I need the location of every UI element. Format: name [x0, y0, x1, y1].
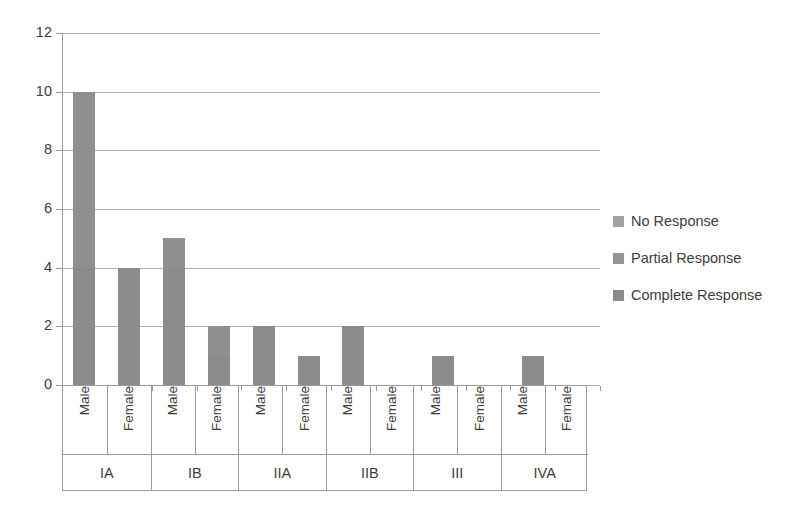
bar[interactable] [208, 326, 230, 385]
bar[interactable] [342, 326, 364, 385]
x-sex-label: Male [78, 386, 92, 419]
bar-chart: 024681012 MaleFemaleIAMaleFemaleIBMaleFe… [0, 0, 807, 515]
x-sex-label: Male [341, 386, 355, 419]
y-tick-mark [56, 92, 62, 93]
bar-segment [73, 92, 95, 268]
bar-segment [118, 268, 140, 385]
bar[interactable] [522, 356, 544, 385]
x-sex-label: Male [254, 386, 268, 419]
x-axis-label-table: MaleFemaleIAMaleFemaleIBMaleFemaleIIAMal… [62, 386, 587, 491]
x-tick-mark [510, 386, 511, 391]
x-sex-cell: Female [195, 386, 238, 454]
x-group-label: IVA [502, 454, 589, 490]
bar-slot [152, 33, 197, 385]
x-sex-row: MaleFemale [63, 386, 151, 454]
y-tick-label: 4 [18, 260, 52, 275]
bar-segment [163, 238, 185, 267]
x-sex-row: MaleFemale [152, 386, 239, 454]
x-sex-label: Female [210, 386, 224, 435]
x-sex-label: Female [473, 386, 487, 435]
bars-layer [62, 33, 600, 385]
x-tick-mark [376, 386, 377, 391]
x-tick-mark [555, 386, 556, 391]
y-tick-label: 12 [18, 25, 52, 40]
bar-slot [331, 33, 376, 385]
x-tick-mark [466, 386, 467, 391]
y-tick-label: 10 [18, 84, 52, 99]
legend-label: No Response [631, 214, 719, 229]
bar-slot [510, 33, 555, 385]
x-sex-label: Male [429, 386, 443, 419]
x-group-III: MaleFemaleIII [413, 386, 501, 490]
x-tick-mark [331, 386, 332, 391]
y-tick-label: 8 [18, 142, 52, 157]
bar[interactable] [163, 238, 185, 385]
bar-slot [197, 33, 242, 385]
y-tick-label: 6 [18, 201, 52, 216]
legend-item[interactable]: Complete Response [613, 285, 793, 306]
bar-slot [421, 33, 466, 385]
x-sex-row: MaleFemale [239, 386, 326, 454]
bar[interactable] [432, 356, 454, 385]
bar-segment [522, 356, 544, 385]
bar-segment [432, 356, 454, 385]
x-tick-mark [107, 386, 108, 391]
x-sex-cell: Female [282, 386, 325, 454]
x-sex-cell: Female [107, 386, 151, 454]
x-sex-row: MaleFemale [414, 386, 501, 454]
x-sex-label: Female [385, 386, 399, 435]
y-tick-mark [56, 209, 62, 210]
legend-swatch-icon [613, 216, 624, 227]
x-sex-cell: Male [152, 386, 195, 454]
x-sex-label: Female [560, 386, 574, 435]
x-group-label: IIB [327, 454, 414, 490]
legend-swatch-icon [613, 253, 624, 264]
bar[interactable] [253, 326, 275, 385]
y-tick-mark [56, 150, 62, 151]
x-group-IA: MaleFemaleIA [63, 386, 151, 490]
bar-segment [298, 356, 320, 385]
x-sex-cell: Female [545, 386, 588, 454]
x-group-IB: MaleFemaleIB [151, 386, 239, 490]
x-sex-cell: Female [370, 386, 413, 454]
x-sex-row: MaleFemale [502, 386, 589, 454]
bar-segment [208, 356, 230, 385]
x-sex-cell: Male [502, 386, 545, 454]
y-tick-mark [56, 326, 62, 327]
bar-segment [342, 326, 364, 385]
bar[interactable] [298, 356, 320, 385]
x-group-label: IA [63, 454, 151, 490]
legend-item[interactable]: No Response [613, 211, 793, 232]
x-sex-cell: Male [63, 386, 107, 454]
bar[interactable] [73, 92, 95, 385]
legend-item[interactable]: Partial Response [613, 248, 793, 269]
x-sex-cell: Male [414, 386, 457, 454]
bar-slot [555, 33, 600, 385]
x-group-IIB: MaleFemaleIIB [326, 386, 414, 490]
x-tick-mark [197, 386, 198, 391]
bar-slot [62, 33, 107, 385]
chart-legend: No ResponsePartial ResponseComplete Resp… [613, 211, 793, 322]
bar-slot [376, 33, 421, 385]
bar-segment [253, 326, 275, 385]
x-sex-label: Male [516, 386, 530, 419]
x-tick-mark [62, 386, 63, 391]
legend-label: Complete Response [631, 288, 762, 303]
bar-segment [208, 326, 230, 355]
x-sex-row: MaleFemale [327, 386, 414, 454]
bar-slot [241, 33, 286, 385]
bar-segment [73, 268, 95, 385]
y-tick-mark [56, 268, 62, 269]
bar[interactable] [118, 268, 140, 385]
x-sex-cell: Female [457, 386, 500, 454]
y-tick-label: 0 [18, 377, 52, 392]
x-group-label: III [414, 454, 501, 490]
y-tick-mark [56, 33, 62, 34]
x-group-label: IB [152, 454, 239, 490]
y-tick-label: 2 [18, 318, 52, 333]
x-group-label: IIA [239, 454, 326, 490]
x-group-IIA: MaleFemaleIIA [238, 386, 326, 490]
x-tick-mark [421, 386, 422, 391]
x-sex-label: Male [166, 386, 180, 419]
x-sex-label: Female [298, 386, 312, 435]
